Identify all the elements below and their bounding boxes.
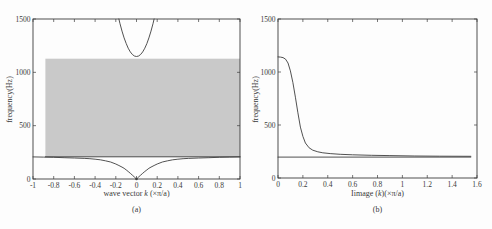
lower-acoustic-branch bbox=[33, 157, 240, 179]
plot-frame bbox=[278, 19, 477, 178]
subplot-b-xlabel-post: )(×π/a) bbox=[382, 189, 404, 198]
x-tick-label: 0 bbox=[276, 180, 280, 189]
figure: -1-0.8-0.6-0.4-0.200.20.40.60.8105001000… bbox=[0, 0, 492, 229]
x-tick-label: 1.6 bbox=[472, 180, 482, 189]
x-tick-label: 0.8 bbox=[373, 180, 383, 189]
x-tick-label: 1 bbox=[401, 180, 405, 189]
subplot-a-caption: (a) bbox=[33, 205, 240, 216]
x-tick-label: 0.6 bbox=[348, 180, 358, 189]
curve-vertex-dot bbox=[135, 178, 138, 181]
y-tick-label: 1000 bbox=[261, 68, 276, 77]
y-tick-label: 500 bbox=[264, 121, 276, 130]
subplot-b-caption: (b) bbox=[278, 205, 477, 216]
subplot-b-xlabel-pre: Iimage ( bbox=[351, 189, 378, 198]
subplot-a-xlabel-pre: wave vector bbox=[103, 189, 144, 198]
y-tick-label: 0 bbox=[272, 174, 276, 183]
y-tick-label: 1000 bbox=[16, 68, 31, 77]
x-tick-label: 1.4 bbox=[447, 180, 457, 189]
upper-optical-branch bbox=[119, 19, 154, 57]
subplot-a: -1-0.8-0.6-0.4-0.200.20.40.60.8105001000… bbox=[0, 0, 246, 229]
y-tick-label: 500 bbox=[19, 121, 31, 130]
y-tick-label: 1500 bbox=[16, 15, 31, 24]
x-tick-label: 0.4 bbox=[323, 180, 333, 189]
subplot-a-xlabel: wave vector k (×π/a) bbox=[33, 189, 240, 200]
y-tick-label: 0 bbox=[27, 175, 31, 184]
evanescent-decay-curve bbox=[278, 57, 471, 156]
x-tick-label: 0.2 bbox=[298, 180, 308, 189]
pass-band-region bbox=[45, 59, 240, 157]
subplot-b: 00.20.40.60.811.21.41.6050010001500 freq… bbox=[246, 0, 492, 229]
subplot-b-xlabel: Iimage (k)(×π/a) bbox=[278, 189, 477, 200]
subplot-a-xlabel-post: (×π/a) bbox=[148, 189, 170, 198]
y-tick-label: 1500 bbox=[261, 15, 276, 24]
x-tick-label: 1.2 bbox=[423, 180, 433, 189]
